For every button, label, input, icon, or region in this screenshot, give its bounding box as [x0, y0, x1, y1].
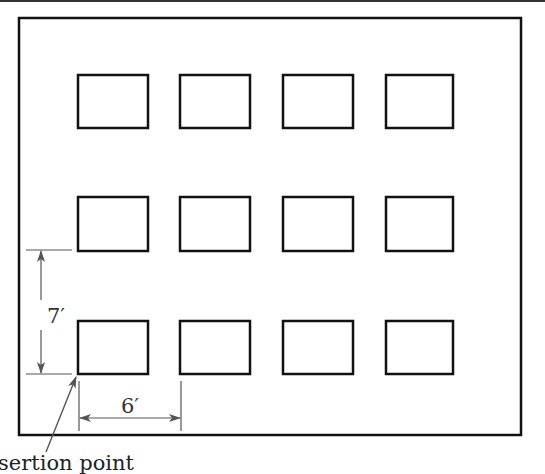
outer-boundary — [19, 18, 521, 435]
array-rect — [283, 75, 353, 128]
array-rect — [180, 75, 250, 128]
array-rect — [180, 197, 250, 251]
diagram-canvas: 7′ 6′ sertion point — [0, 0, 545, 474]
insertion-point-label: sertion point — [0, 451, 135, 474]
vertical-dimension-label: 7′ — [47, 304, 65, 328]
insertion-point-leader — [46, 377, 76, 452]
array-rect — [386, 197, 453, 251]
array-rect — [78, 197, 148, 251]
top-edge-line — [0, 0, 545, 2]
array-rect — [386, 75, 453, 128]
array-rect — [78, 321, 148, 374]
array-rect — [180, 321, 250, 374]
array-rect — [283, 321, 353, 374]
array-rect — [78, 75, 148, 128]
rectangle-array — [78, 75, 453, 374]
array-rect — [283, 197, 353, 251]
array-rect — [386, 321, 453, 374]
horizontal-dimension-label: 6′ — [121, 394, 139, 418]
